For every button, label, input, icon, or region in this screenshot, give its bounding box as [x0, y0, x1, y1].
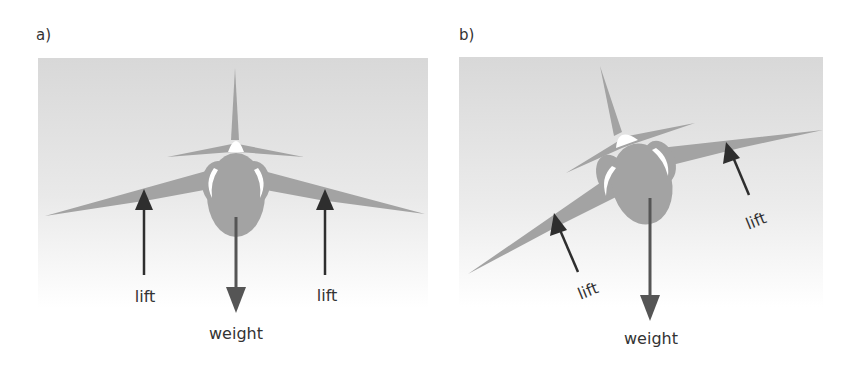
panel-a-label: a): [36, 26, 51, 44]
lift-label-left: lift: [135, 287, 156, 306]
weight-label: weight: [624, 329, 678, 348]
panel-a: a): [36, 26, 428, 343]
panel-b-label: b): [459, 26, 474, 44]
panel-b: b): [459, 26, 823, 348]
weight-label: weight: [209, 324, 263, 343]
lift-weight-diagram: a): [0, 0, 855, 373]
lift-label-right: lift: [317, 286, 338, 305]
